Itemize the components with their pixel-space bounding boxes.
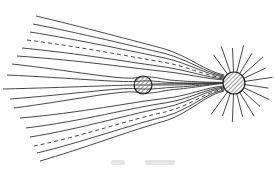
diagram-canvas [0, 0, 274, 175]
small-sphere [134, 76, 152, 94]
field-lines [3, 16, 224, 161]
figure-caption [103, 160, 183, 166]
field-line-diagram [0, 0, 274, 175]
large-sphere [223, 72, 245, 94]
